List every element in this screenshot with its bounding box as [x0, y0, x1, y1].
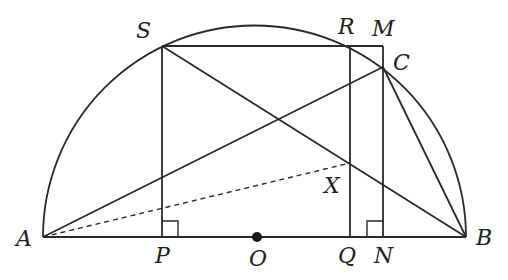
- label-A: A: [14, 226, 32, 251]
- label-S: S: [136, 18, 151, 43]
- segment-SB: [162, 46, 466, 237]
- label-B: B: [475, 225, 492, 250]
- geometry-diagram: S R M C A B P O Q N X: [0, 0, 508, 280]
- label-R: R: [337, 14, 355, 39]
- center-point-O: [252, 232, 262, 242]
- label-P: P: [154, 243, 171, 268]
- label-Q: Q: [338, 243, 356, 268]
- label-C: C: [393, 50, 410, 75]
- dashed-segment-AX: [43, 163, 350, 237]
- right-angle-marker-N: [367, 221, 383, 237]
- right-angle-marker-P: [162, 221, 178, 237]
- label-M: M: [371, 16, 395, 41]
- label-X: X: [322, 173, 341, 198]
- label-N: N: [373, 243, 394, 268]
- label-O: O: [249, 246, 267, 271]
